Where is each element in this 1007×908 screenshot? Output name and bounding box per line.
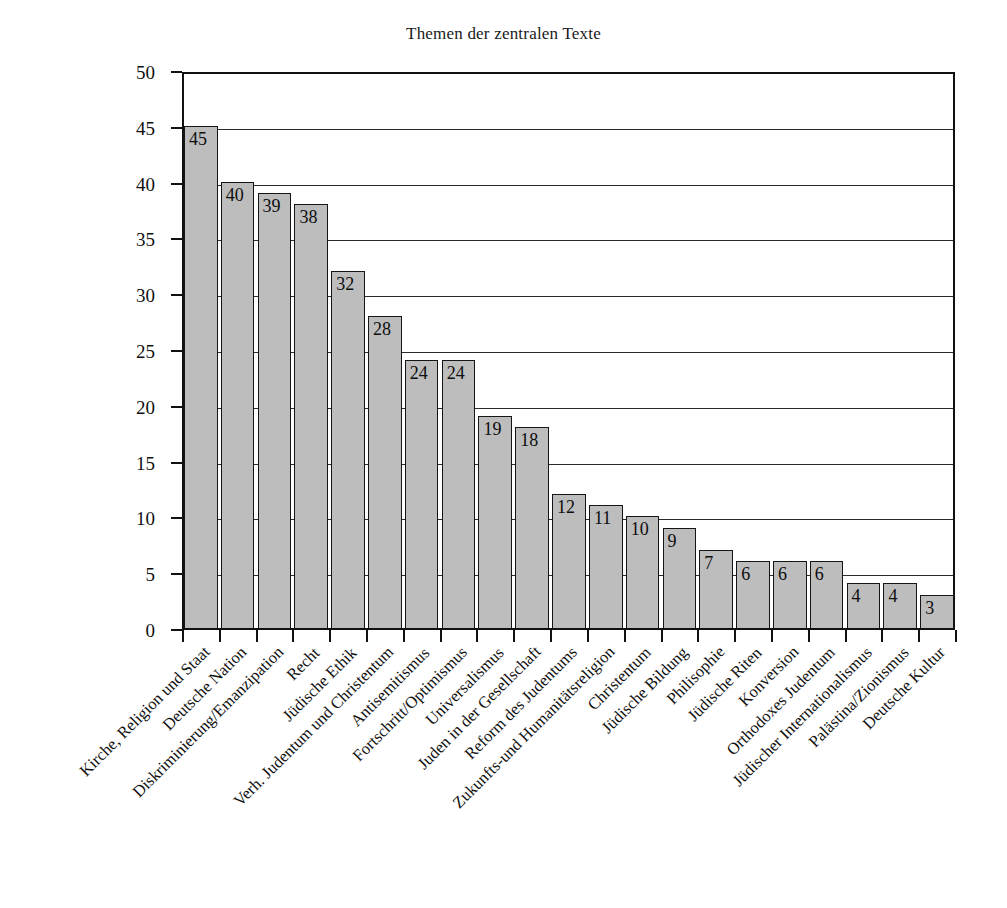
gridline	[184, 185, 953, 186]
x-axis-tick-mark	[476, 630, 478, 642]
bar[interactable]: 32	[331, 271, 365, 628]
x-axis-tick-mark	[550, 630, 552, 642]
plot-area: 4540393832282424191812111097666443	[182, 72, 955, 630]
bar[interactable]: 6	[736, 561, 770, 628]
bar[interactable]: 45	[184, 126, 218, 628]
x-axis-category-label: Deutsche Kultur	[860, 644, 948, 732]
bar[interactable]: 10	[626, 516, 660, 628]
x-axis-tick-mark	[587, 630, 589, 642]
bar[interactable]: 18	[515, 427, 549, 628]
x-axis-category-label: Zukunfts-und Humanitätsreligion	[450, 644, 618, 812]
bar[interactable]: 11	[589, 505, 623, 628]
bar-value-label: 10	[631, 520, 649, 538]
bar-value-label: 45	[189, 130, 207, 148]
y-axis-tick-mark	[171, 183, 182, 185]
y-axis-tick-mark	[171, 127, 182, 129]
x-axis-tick-mark	[734, 630, 736, 642]
x-axis-category-label: Antisemitismus	[348, 644, 433, 729]
x-axis-category-text: Palästina/Zionismus	[804, 643, 912, 751]
bar[interactable]: 40	[221, 182, 255, 628]
bar[interactable]: 24	[442, 360, 476, 628]
bar[interactable]: 4	[883, 583, 917, 628]
x-axis-category-label: Jüdische Riten	[685, 644, 765, 724]
x-axis-tick-mark	[329, 630, 331, 642]
x-axis-tick-mark	[697, 630, 699, 642]
x-axis-tick-mark	[845, 630, 847, 642]
y-axis-tick-mark	[171, 71, 182, 73]
bar[interactable]: 7	[699, 550, 733, 628]
x-axis-category-text: Jüdische Bildung	[598, 642, 692, 736]
x-axis-category-label: Christentum	[585, 644, 654, 713]
y-axis-tick-label: 40	[136, 174, 155, 193]
x-axis-category-label: Jüdische Ethik	[280, 644, 360, 724]
bar[interactable]: 24	[405, 360, 439, 628]
bar-value-label: 7	[704, 554, 713, 572]
x-axis-category-label: Orthodoxes Judentum	[724, 644, 838, 758]
x-axis-category-label: Reform des Judentums	[462, 644, 581, 763]
x-axis-category-text: Christentum	[583, 643, 654, 714]
bar[interactable]: 28	[368, 316, 402, 628]
x-axis-category-text: Juden in der Gesellschaft	[414, 642, 545, 773]
y-axis-tick-label: 35	[136, 230, 155, 249]
y-axis-tick-mark	[171, 238, 182, 240]
x-axis-category-text: Verh. Judentum und Christentum	[230, 642, 398, 810]
x-axis-category-text: Zukunfts-und Humanitätsreligion	[448, 642, 618, 812]
bar-value-label: 32	[336, 275, 354, 293]
x-axis-tick-mark	[182, 630, 184, 642]
y-axis-tick-mark	[171, 462, 182, 464]
y-axis-tick-label: 30	[136, 286, 155, 305]
bar-value-label: 11	[594, 509, 611, 527]
bar-value-label: 4	[852, 587, 861, 605]
bar[interactable]: 3	[920, 595, 954, 628]
y-axis-tick-mark	[171, 629, 182, 631]
x-axis-tick-mark	[771, 630, 773, 642]
gridline	[184, 73, 953, 74]
y-axis-tick-label: 45	[136, 118, 155, 137]
bar[interactable]: 9	[663, 528, 697, 628]
x-axis-category-text: Orthodoxes Judentum	[723, 642, 839, 758]
x-axis-category-label: Philisophie	[664, 644, 728, 708]
x-axis-category-text: Recht	[283, 643, 324, 684]
y-axis-tick-mark	[171, 406, 182, 408]
x-axis-category-label: Juden in der Gesellschaft	[415, 644, 544, 773]
y-axis: 05101520253035404550	[0, 0, 182, 908]
bar[interactable]: 12	[552, 494, 586, 628]
x-axis-tick-mark	[881, 630, 883, 642]
bar-value-label: 6	[778, 565, 787, 583]
x-axis-category-text: Philisophie	[663, 642, 729, 708]
x-axis-category-text: Jüdische Riten	[683, 643, 765, 725]
x-axis-category-text: Jüdische Ethik	[278, 643, 360, 725]
y-axis-tick-label: 0	[146, 621, 156, 640]
x-axis-category-label: Jüdische Bildung	[599, 644, 691, 736]
bar-value-label: 9	[668, 532, 677, 550]
bar-value-label: 24	[447, 364, 465, 382]
y-axis-tick-mark	[171, 573, 182, 575]
bar-value-label: 39	[263, 197, 281, 215]
x-axis-category-label: Jüdischer Internationalismus	[730, 644, 875, 789]
x-axis-tick-mark	[403, 630, 405, 642]
bar[interactable]: 39	[258, 193, 292, 628]
y-axis-tick-label: 25	[136, 342, 155, 361]
bar-value-label: 12	[557, 498, 575, 516]
x-axis-tick-mark	[292, 630, 294, 642]
y-axis-tick-label: 15	[136, 453, 155, 472]
x-axis-category-label: Verh. Judentum und Christentum	[231, 644, 397, 810]
x-axis-category-label: Konversion	[736, 644, 802, 710]
y-axis-tick-label: 10	[136, 509, 155, 528]
bar[interactable]: 6	[810, 561, 844, 628]
y-axis-tick-mark	[171, 294, 182, 296]
y-axis-tick-label: 5	[146, 565, 156, 584]
bar-value-label: 6	[741, 565, 750, 583]
bar[interactable]: 19	[478, 416, 512, 628]
bar-value-label: 38	[299, 208, 317, 226]
x-axis-category-text: Konversion	[734, 643, 802, 711]
bar[interactable]: 4	[847, 583, 881, 628]
x-axis-category-label: Universalismus	[423, 644, 507, 728]
bar[interactable]: 38	[294, 204, 328, 628]
x-axis-category-text: Fortschritt/Optimismus	[348, 643, 470, 765]
bar-value-label: 3	[925, 599, 934, 617]
x-axis-category-label: Palästina/Zionismus	[806, 644, 912, 750]
x-axis-category-text: Deutsche Kultur	[859, 643, 949, 733]
bar[interactable]: 6	[773, 561, 807, 628]
bar-value-label: 4	[888, 587, 897, 605]
